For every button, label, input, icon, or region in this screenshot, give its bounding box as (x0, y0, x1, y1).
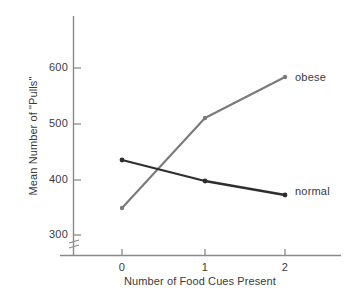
y-tick-label-600: 600 (34, 61, 68, 73)
y-axis-ticks (74, 68, 82, 235)
y-tick-label-300: 300 (34, 228, 68, 240)
y-axis-label: Mean Number of "Pulls" (27, 56, 39, 216)
series-label-normal: normal (295, 185, 330, 197)
y-tick-label-400: 400 (34, 173, 68, 185)
series-line-obese (122, 77, 285, 208)
x-tick-label-2: 2 (275, 261, 295, 273)
x-axis-label: Number of Food Cues Present (60, 275, 340, 287)
x-tick-label-0: 0 (112, 261, 132, 273)
y-tick-label-500: 500 (34, 117, 68, 129)
chart-figure: 600 500 400 300 0 1 2 Mean Number of "Pu… (0, 0, 350, 300)
series-label-obese: obese (295, 71, 326, 83)
x-tick-label-1: 1 (195, 261, 215, 273)
series-line-normal (122, 160, 285, 195)
plot-canvas (0, 0, 350, 300)
